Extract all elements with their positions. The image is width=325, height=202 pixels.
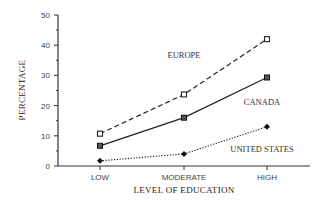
y-tick-label: 20 [41,102,50,111]
data-point-marker [98,143,103,148]
data-point-marker [97,158,103,164]
y-tick-label: 10 [41,132,50,141]
label-united-states: UNITED STATES [230,144,294,154]
data-point-marker [182,115,187,120]
x-tick-label: MODERATE [162,173,207,182]
y-tick-label: 40 [41,41,50,50]
line-chart: 01020304050 LOWMODERATEHIGH PERCENTAGE L… [0,0,325,202]
label-canada: CANADA [244,97,281,107]
data-point-marker [181,151,187,157]
data-point-marker [265,75,270,80]
series-line-canada [100,78,267,146]
y-tick-label: 0 [46,162,51,171]
data-point-marker [264,124,270,130]
x-tick-label: LOW [91,173,110,182]
label-europe: EUROPE [167,50,200,60]
data-point-marker [182,92,187,97]
y-axis-ticks: 01020304050 [41,11,58,171]
data-point-marker [265,37,270,42]
x-axis-ticks: LOWMODERATEHIGH [91,166,277,182]
y-tick-label: 50 [41,11,50,20]
y-axis-label: PERCENTAGE [17,59,27,120]
x-tick-label: HIGH [257,173,277,182]
y-tick-label: 30 [41,71,50,80]
data-point-marker [98,131,103,136]
x-axis-label: LEVEL OF EDUCATION [133,185,234,195]
